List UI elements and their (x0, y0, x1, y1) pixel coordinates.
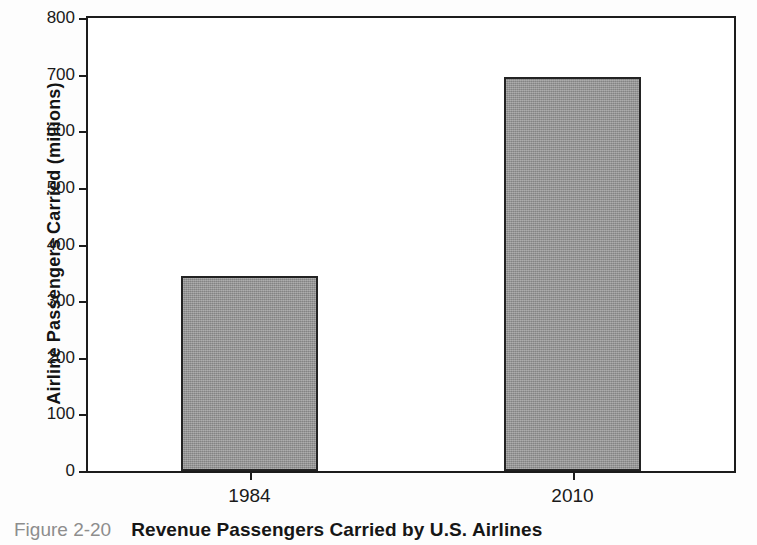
figure-caption: Figure 2-20Revenue Passengers Carried by… (14, 517, 757, 545)
y-axis-tick (79, 75, 88, 77)
y-axis-tick (79, 188, 88, 190)
figure-caption-label: Figure 2-20 (14, 519, 111, 540)
y-axis-tick-label: 700 (47, 65, 75, 85)
figure-caption-text: Revenue Passengers Carried by U.S. Airli… (131, 519, 542, 540)
y-axis-tick (79, 414, 88, 416)
y-axis-tick-label: 800 (47, 8, 75, 28)
y-axis-tick-label: 600 (47, 121, 75, 141)
bar-2010 (504, 77, 641, 471)
y-axis-tick (79, 358, 88, 360)
x-axis-tick-label: 2010 (551, 485, 593, 507)
x-axis-tick-label: 1984 (228, 485, 270, 507)
y-axis-tick-label: 100 (47, 404, 75, 424)
y-axis-tick-label: 200 (47, 348, 75, 368)
scanned-page: Airline Passengers Carried (millions) 01… (0, 0, 757, 545)
bar-1984 (181, 276, 318, 471)
y-axis-tick (79, 471, 88, 473)
y-axis-tick (79, 301, 88, 303)
y-axis-tick (79, 131, 88, 133)
x-axis-tick (250, 471, 252, 480)
y-axis-tick-label: 0 (66, 461, 75, 481)
y-axis-tick-label: 300 (47, 291, 75, 311)
bar-chart-figure: Airline Passengers Carried (millions) 01… (0, 0, 757, 510)
y-axis-tick (79, 245, 88, 247)
y-axis-tick-label: 500 (47, 178, 75, 198)
plot-frame: 010020030040050060070080019842010 (86, 16, 736, 473)
x-axis-tick (573, 471, 575, 480)
y-axis-tick-label: 400 (47, 235, 75, 255)
y-axis-tick (79, 18, 88, 20)
plot-area: 010020030040050060070080019842010 (88, 18, 734, 471)
